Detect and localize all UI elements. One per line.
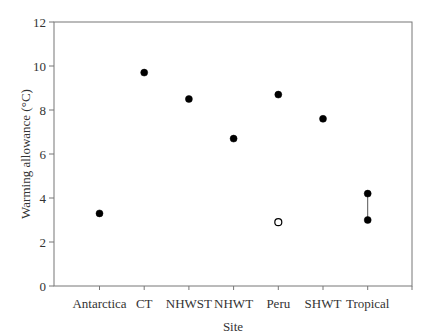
open-circle-marker: [275, 219, 282, 226]
y-tick-label: 4: [40, 191, 47, 206]
y-tick-label: 0: [40, 279, 47, 294]
x-axis-label: Site: [223, 319, 243, 334]
y-axis: 024681012: [33, 15, 54, 294]
filled-circle-marker: [96, 210, 103, 217]
filled-circle-marker: [364, 190, 371, 197]
x-tick-label: Tropical: [346, 296, 390, 311]
data-points: [96, 69, 371, 226]
filled-circle-marker: [141, 69, 148, 76]
y-tick-label: 12: [33, 15, 46, 30]
filled-circle-marker: [364, 217, 371, 224]
y-tick-label: 2: [40, 235, 47, 250]
filled-circle-marker: [320, 115, 327, 122]
y-tick-label: 8: [40, 103, 47, 118]
x-tick-label: Peru: [266, 296, 290, 311]
y-tick-label: 10: [33, 59, 46, 74]
y-axis-label: Warming allowance (°C): [18, 89, 33, 219]
x-tick-label: SHWT: [305, 296, 342, 311]
x-tick-label: CT: [136, 296, 153, 311]
x-axis: AntarcticaCTNHWSTNHWTPeruSHWTTropical: [72, 286, 412, 311]
x-tick-label: NHWT: [214, 296, 253, 311]
x-tick-label: NHWST: [166, 296, 212, 311]
filled-circle-marker: [230, 135, 237, 142]
plot-frame: [54, 22, 412, 286]
x-tick-label: Antarctica: [72, 296, 126, 311]
y-tick-label: 6: [40, 147, 47, 162]
scatter-chart: 024681012 AntarcticaCTNHWSTNHWTPeruSHWTT…: [0, 0, 432, 336]
filled-circle-marker: [275, 91, 282, 98]
filled-circle-marker: [185, 96, 192, 103]
